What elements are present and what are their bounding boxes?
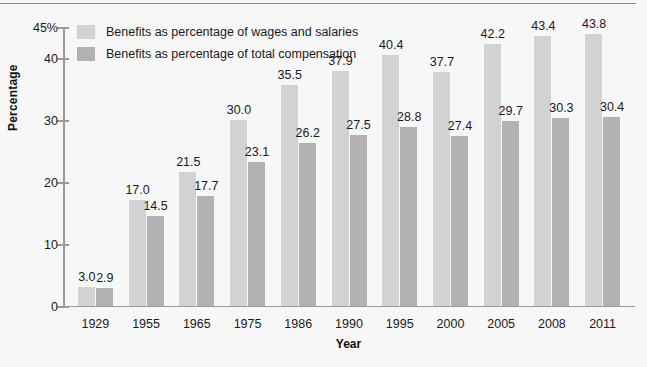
- bar: [451, 136, 468, 306]
- y-axis-tick-label: 10: [44, 238, 58, 252]
- bar-value-label: 17.0: [121, 183, 155, 197]
- y-axis-tick: [57, 27, 69, 29]
- y-axis-tick: [57, 182, 69, 184]
- bar-value-label: 27.4: [443, 119, 477, 133]
- bar: [129, 200, 146, 305]
- bar-value-label: 28.8: [392, 110, 426, 124]
- legend-color-swatch: [77, 25, 95, 39]
- x-axis-title-text: Year: [336, 337, 361, 351]
- bar: [400, 127, 417, 306]
- bar: [502, 121, 519, 305]
- y-axis-tick-labels: 01020304045%: [8, 28, 58, 307]
- bar: [433, 72, 450, 306]
- bar-value-label: 37.7: [425, 55, 459, 69]
- bar-value-label: 26.2: [291, 126, 325, 140]
- bar-value-label: 2.9: [88, 271, 122, 285]
- y-axis-tick: [57, 58, 69, 60]
- bar-group: 30.023.1: [230, 27, 265, 306]
- bar-group: 43.830.4: [585, 27, 620, 306]
- legend-item[interactable]: Benefits as percentage of wages and sala…: [77, 21, 358, 43]
- chart-figure: Percentage 01020304045% 3.02.917.014.521…: [0, 0, 647, 367]
- legend-color-swatch: [77, 47, 95, 61]
- bar-group: 43.430.3: [534, 27, 569, 306]
- bar-value-label: 17.7: [189, 179, 223, 193]
- y-axis-line: [63, 28, 65, 307]
- y-axis-tick: [57, 306, 69, 308]
- bar-group: 17.014.5: [129, 27, 164, 306]
- x-axis-line: [63, 306, 635, 308]
- bar: [248, 162, 265, 305]
- bar: [281, 85, 298, 305]
- bar-group: 37.727.4: [433, 27, 468, 306]
- bar-value-label: 21.5: [171, 155, 205, 169]
- bar-value-label: 27.5: [342, 118, 376, 132]
- legend-label: Benefits as percentage of total compensa…: [106, 47, 356, 61]
- legend-label: Benefits as percentage of wages and sala…: [106, 25, 358, 39]
- y-axis-tick-label: 45%: [33, 21, 58, 35]
- plot-area: 01020304045% 3.02.917.014.521.517.730.02…: [63, 28, 635, 307]
- y-axis-tick: [57, 120, 69, 122]
- y-axis-tick-label: 40: [44, 52, 58, 66]
- bar: [332, 71, 349, 306]
- x-axis-title: Year: [0, 337, 647, 351]
- bar-value-label: 29.7: [494, 104, 528, 118]
- bar-value-label: 23.1: [240, 145, 274, 159]
- bar-group: 37.927.5: [332, 27, 367, 306]
- y-axis-tick-label: 0: [51, 300, 58, 314]
- bar-value-label: 30.3: [544, 101, 578, 115]
- bar: [484, 44, 501, 306]
- x-axis-tick-label: 2011: [573, 317, 633, 331]
- chart-legend: Benefits as percentage of wages and sala…: [77, 21, 358, 65]
- bar-value-label: 40.4: [374, 38, 408, 52]
- bar: [78, 287, 95, 306]
- bar: [603, 117, 620, 305]
- bar-group: 35.526.2: [281, 27, 316, 306]
- bar: [299, 143, 316, 305]
- bar-value-label: 14.5: [139, 199, 173, 213]
- bar-value-label: 35.5: [273, 68, 307, 82]
- bar-value-label: 43.4: [526, 19, 560, 33]
- bar-group: 21.517.7: [179, 27, 214, 306]
- bar-group: 40.428.8: [382, 27, 417, 306]
- bar: [147, 216, 164, 306]
- bar: [552, 118, 569, 306]
- bar-group: 42.229.7: [484, 27, 519, 306]
- bar-value-label: 30.0: [222, 103, 256, 117]
- bar: [534, 36, 551, 305]
- legend-item[interactable]: Benefits as percentage of total compensa…: [77, 43, 358, 65]
- top-divider-rule: [0, 3, 636, 4]
- y-axis-tick-label: 30: [44, 114, 58, 128]
- bar: [382, 55, 399, 305]
- bar: [350, 135, 367, 306]
- bar-value-label: 43.8: [577, 17, 611, 31]
- bar: [585, 34, 602, 306]
- bar: [96, 288, 113, 306]
- y-axis-tick: [57, 244, 69, 246]
- bar-group: 3.02.9: [78, 27, 113, 306]
- bar: [197, 196, 214, 306]
- bar-value-label: 42.2: [476, 27, 510, 41]
- bar-value-label: 30.4: [595, 100, 629, 114]
- y-axis-tick-label: 20: [44, 176, 58, 190]
